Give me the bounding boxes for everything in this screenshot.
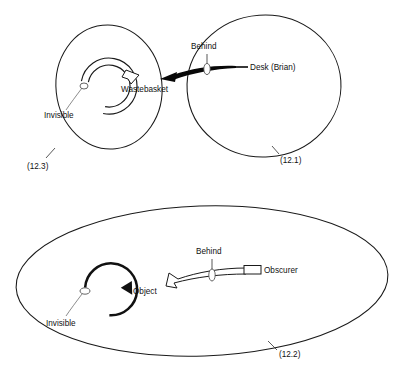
label-behind-bottom: Behind [196,247,222,256]
behind-marker-ellipse [204,63,210,74]
fignum-12-2: (12.2) [279,350,301,359]
fignum-12-3: (12.3) [27,162,49,171]
bottom-panel: Invisible Object Behind Obscurer (12.2) [13,200,390,363]
label-wastebasket: Wastebasket [121,85,169,94]
label-invisible-top: Invisible [44,111,74,120]
diagram-root: Invisible Wastebasket Behind Desk (Brian… [0,0,404,368]
label-desk-brian: Desk (Brian) [250,63,296,72]
fignum-12-1: (12.1) [280,156,302,165]
behind-marker-top [204,54,210,75]
invisible-gap-marker-bottom [66,288,90,316]
invisible-leader-line-bottom [66,294,82,316]
diagram-canvas: Invisible Wastebasket Behind Desk (Brian… [0,0,404,368]
obscurer-arrow-tail-box [244,266,261,275]
behind-marker-ellipse-bottom [209,269,215,281]
circular-arrow-object [82,261,139,318]
invisible-leader-line [66,88,82,110]
region-oval-12-1 [182,10,346,162]
top-panel: Invisible Wastebasket Behind Desk (Brian… [27,10,346,171]
fignum-12-3-leader [46,148,55,158]
fignum-12-1-leader [272,146,279,154]
behind-marker-bottom [209,259,215,281]
obscurer-arrow-top [160,66,236,82]
obscurer-arrow-head [160,72,177,82]
region-oval-12-2 [13,200,390,363]
obscurer-arrow-body [166,268,246,288]
label-obscurer: Obscurer [264,266,298,275]
invisible-marker-ellipse [80,83,88,89]
invisible-marker-ellipse-bottom [80,288,90,294]
label-behind-top: Behind [191,42,217,51]
invisible-gap-marker-top [66,83,88,110]
desk-arrow-tail-stub [236,66,248,68]
label-object: Object [133,287,157,296]
label-invisible-bottom: Invisible [46,319,76,328]
